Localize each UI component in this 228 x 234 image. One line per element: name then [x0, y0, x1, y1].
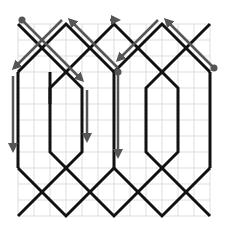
start-dot-icon	[115, 69, 122, 76]
diagram-canvas	[0, 0, 228, 234]
start-dot-icon	[211, 65, 218, 72]
start-dot-icon	[19, 17, 26, 24]
knot-diagram	[0, 0, 228, 234]
